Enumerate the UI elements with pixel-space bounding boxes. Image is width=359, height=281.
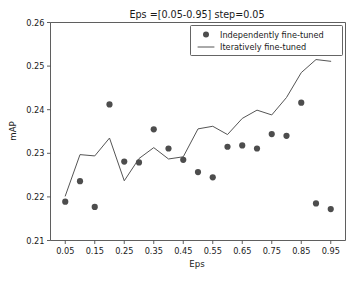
legend-label-independently-fine-tuned: Independently fine-tuned bbox=[220, 30, 324, 40]
chart-title: Eps =[0.05-0.95] step=0.05 bbox=[129, 9, 264, 20]
x-tick-label: 0.55 bbox=[204, 246, 222, 256]
chart-canvas: Eps =[0.05-0.95] step=0.05 0.210.220.230… bbox=[0, 0, 359, 281]
y-tick-label: 0.21 bbox=[26, 236, 44, 246]
x-tick-label: 0.15 bbox=[86, 246, 104, 256]
x-tick-label: 0.45 bbox=[174, 246, 192, 256]
legend-label-iteratively-fine-tuned: Iteratively fine-tuned bbox=[220, 42, 306, 52]
legend-marker-dot-icon bbox=[203, 32, 209, 38]
data-point-marker bbox=[298, 100, 304, 106]
data-point-marker bbox=[180, 157, 186, 163]
x-tick-label: 0.05 bbox=[56, 246, 74, 256]
data-point-marker bbox=[239, 142, 245, 148]
y-tick-label: 0.23 bbox=[26, 148, 44, 158]
data-point-marker bbox=[106, 101, 112, 107]
data-point-marker bbox=[136, 159, 142, 165]
data-point-marker bbox=[224, 144, 230, 150]
data-point-marker bbox=[62, 199, 68, 205]
data-point-marker bbox=[92, 204, 98, 210]
data-point-marker bbox=[254, 145, 260, 151]
data-point-marker bbox=[313, 200, 319, 206]
x-tick-label: 0.95 bbox=[322, 246, 340, 256]
data-point-marker bbox=[210, 174, 216, 180]
data-point-marker bbox=[77, 178, 83, 184]
chart-figure: Eps =[0.05-0.95] step=0.05 0.210.220.230… bbox=[0, 0, 359, 281]
x-tick-label: 0.85 bbox=[292, 246, 310, 256]
data-point-marker bbox=[195, 169, 201, 175]
data-point-marker bbox=[328, 206, 334, 212]
data-point-marker bbox=[269, 131, 275, 137]
x-axis-label: Eps bbox=[189, 259, 205, 269]
y-tick-label: 0.26 bbox=[26, 18, 44, 28]
y-axis-label: mAP bbox=[8, 121, 18, 140]
data-point-marker bbox=[283, 133, 289, 139]
data-point-marker bbox=[165, 145, 171, 151]
x-tick-label: 0.25 bbox=[115, 246, 133, 256]
chart-legend[interactable]: Independently fine-tuned Iteratively fin… bbox=[191, 26, 343, 56]
y-tick-label: 0.22 bbox=[26, 192, 44, 202]
x-tick-label: 0.75 bbox=[263, 246, 281, 256]
y-tick-label: 0.24 bbox=[26, 105, 44, 115]
y-tick-label: 0.25 bbox=[26, 61, 44, 71]
data-point-marker bbox=[151, 126, 157, 132]
x-tick-label: 0.65 bbox=[233, 246, 251, 256]
x-tick-label: 0.35 bbox=[145, 246, 163, 256]
data-point-marker bbox=[121, 158, 127, 164]
